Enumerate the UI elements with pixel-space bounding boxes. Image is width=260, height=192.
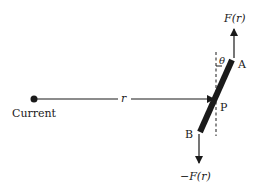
- distance-label: r: [121, 92, 127, 105]
- current-label: Current: [12, 107, 57, 120]
- point-a-label: A: [237, 58, 247, 71]
- point-b-label: B: [185, 128, 193, 141]
- point-p-label: P: [220, 101, 228, 114]
- force-down-label: −F(r): [180, 170, 211, 183]
- force-diagram: Current r θ F(r) −F(r) A B P: [0, 0, 260, 192]
- force-up-label: F(r): [223, 12, 245, 25]
- angle-label: θ: [219, 55, 225, 66]
